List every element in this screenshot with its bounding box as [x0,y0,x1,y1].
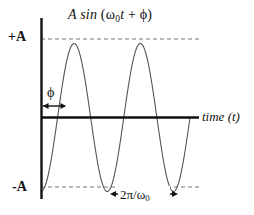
time-axis-label-word: time [202,109,224,124]
period-label: 2π/ω0 [120,188,150,201]
y-axis-minus-amplitude-label: -A [12,180,27,194]
time-axis-label: time (t) [202,110,240,123]
title-function: sin [80,7,97,22]
title-close-paren: ) [147,7,152,22]
sine-wave-figure: A sin (ω0t + ϕ) +A -A time (t) ϕ 2π/ω0 [0,0,254,215]
title-plus-sign: + [128,7,136,22]
title-time-variable: t [120,7,124,22]
title-omega: ω [106,7,115,22]
figure-title: A sin (ω0t + ϕ) [68,8,152,22]
time-axis-label-variable: (t) [228,109,240,124]
y-axis-plus-amplitude-label: +A [8,30,26,44]
plot-canvas [0,0,254,215]
title-amplitude: A [68,7,77,22]
phase-symbol-label: ϕ [47,86,54,100]
period-numerator: 2π [120,187,133,202]
period-omega: ω [137,187,146,202]
phase-arrow [43,103,66,109]
period-omega-subscript: 0 [145,193,149,203]
title-omega-subscript: 0 [115,14,120,24]
